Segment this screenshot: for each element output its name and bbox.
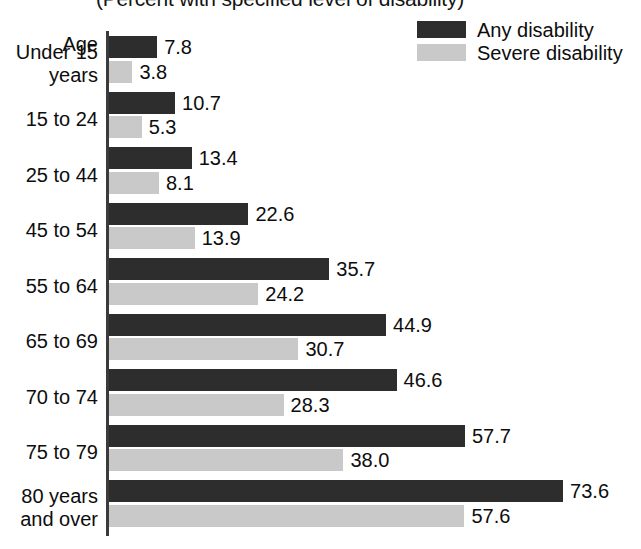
bar-group: 15 to 2410.75.3 xyxy=(0,92,641,148)
bar-value-label: 38.0 xyxy=(350,450,389,470)
bar-severe-disability: 24.2 xyxy=(109,283,304,305)
bar-value-label: 44.9 xyxy=(393,315,432,335)
bar-any-disability: 13.4 xyxy=(109,147,238,169)
bar-any-disability: 46.6 xyxy=(109,369,442,391)
category-label: Under 15 years xyxy=(0,41,98,87)
bar-group: 65 to 6944.930.7 xyxy=(0,314,641,370)
bar-severe-disability: 3.8 xyxy=(109,61,167,83)
bar-groups: Under 15 years7.83.815 to 2410.75.325 to… xyxy=(0,0,641,549)
bar-rect xyxy=(109,172,159,194)
bar-rect xyxy=(109,425,465,447)
bar-severe-disability: 5.3 xyxy=(109,116,177,138)
bar-group: 25 to 4413.48.1 xyxy=(0,147,641,203)
bar-severe-disability: 38.0 xyxy=(109,449,389,471)
bar-any-disability: 57.7 xyxy=(109,425,511,447)
bar-rect xyxy=(109,449,343,471)
bar-rect xyxy=(109,92,175,114)
bar-rect xyxy=(109,283,258,305)
bar-rect xyxy=(109,61,132,83)
bar-group: 80 years and over73.657.6 xyxy=(0,480,641,536)
bar-value-label: 24.2 xyxy=(265,284,304,304)
bar-value-label: 5.3 xyxy=(149,117,177,137)
bar-any-disability: 73.6 xyxy=(109,480,609,502)
bar-rect xyxy=(109,227,195,249)
bar-rect xyxy=(109,314,386,336)
bar-rect xyxy=(109,369,397,391)
bar-value-label: 30.7 xyxy=(305,339,344,359)
bar-group: 55 to 6435.724.2 xyxy=(0,258,641,314)
bar-rect xyxy=(109,505,464,527)
bar-any-disability: 35.7 xyxy=(109,258,375,280)
bar-group: 45 to 5422.613.9 xyxy=(0,203,641,259)
bar-value-label: 10.7 xyxy=(182,93,221,113)
bar-rect xyxy=(109,394,284,416)
bar-group: Under 15 years7.83.8 xyxy=(0,36,641,92)
bar-value-label: 22.6 xyxy=(255,204,294,224)
bar-rect xyxy=(109,203,248,225)
bar-value-label: 3.8 xyxy=(139,62,167,82)
category-label: 45 to 54 xyxy=(0,219,98,242)
bar-any-disability: 22.6 xyxy=(109,203,294,225)
bar-rect xyxy=(109,258,329,280)
bar-value-label: 73.6 xyxy=(570,481,609,501)
bar-rect xyxy=(109,338,298,360)
category-label: 55 to 64 xyxy=(0,274,98,297)
bar-chart-figure: (Percent with specified level of disabil… xyxy=(0,0,641,549)
bar-value-label: 13.4 xyxy=(199,148,238,168)
category-label: 80 years and over xyxy=(0,485,98,531)
bar-rect xyxy=(109,480,563,502)
category-label: 70 to 74 xyxy=(0,385,98,408)
bar-any-disability: 7.8 xyxy=(109,36,192,58)
bar-severe-disability: 30.7 xyxy=(109,338,344,360)
category-label: 65 to 69 xyxy=(0,330,98,353)
bar-group: 70 to 7446.628.3 xyxy=(0,369,641,425)
bar-value-label: 57.6 xyxy=(471,506,510,526)
bar-any-disability: 10.7 xyxy=(109,92,221,114)
bar-value-label: 7.8 xyxy=(164,37,192,57)
bar-severe-disability: 8.1 xyxy=(109,172,194,194)
category-label: 75 to 79 xyxy=(0,441,98,464)
bar-severe-disability: 28.3 xyxy=(109,394,330,416)
bar-severe-disability: 57.6 xyxy=(109,505,510,527)
bar-rect xyxy=(109,36,157,58)
bar-value-label: 8.1 xyxy=(166,173,194,193)
bar-group: 75 to 7957.738.0 xyxy=(0,425,641,481)
bar-value-label: 13.9 xyxy=(202,228,241,248)
category-label: 15 to 24 xyxy=(0,108,98,131)
bar-value-label: 46.6 xyxy=(404,370,443,390)
bar-severe-disability: 13.9 xyxy=(109,227,241,249)
bar-value-label: 35.7 xyxy=(336,259,375,279)
bar-value-label: 28.3 xyxy=(291,395,330,415)
bar-rect xyxy=(109,147,192,169)
bar-any-disability: 44.9 xyxy=(109,314,432,336)
category-label: 25 to 44 xyxy=(0,163,98,186)
bar-value-label: 57.7 xyxy=(472,426,511,446)
bar-rect xyxy=(109,116,142,138)
